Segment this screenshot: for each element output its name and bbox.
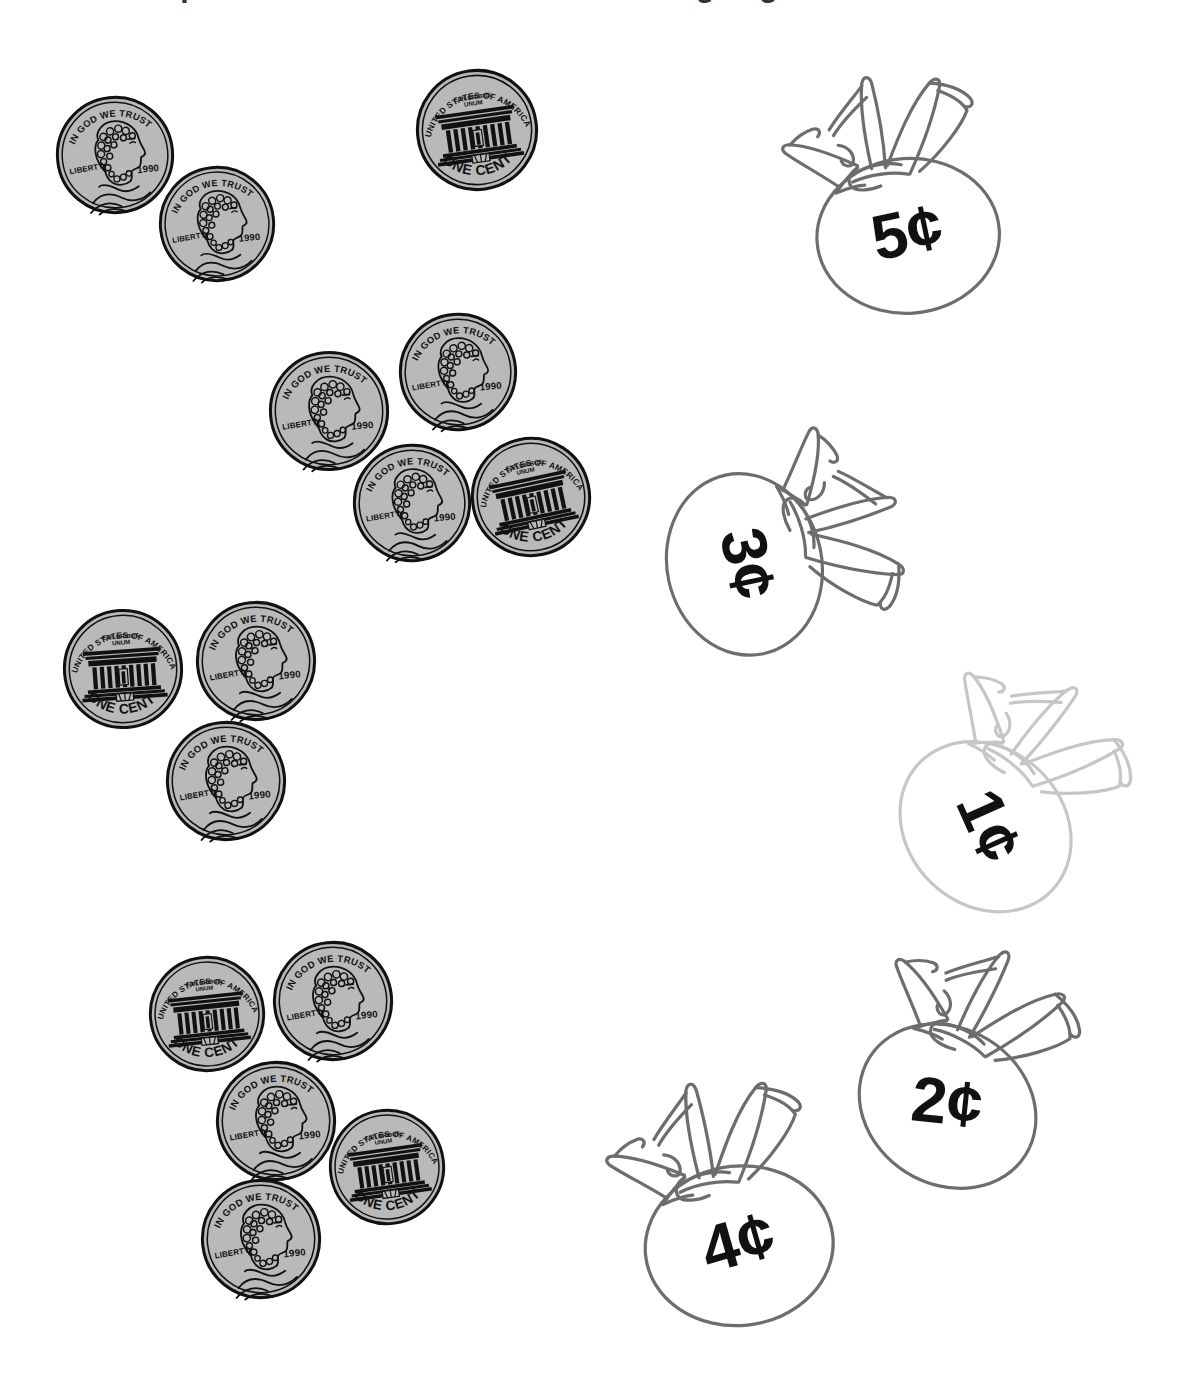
bag-5c[interactable]: 5¢ — [761, 52, 1029, 329]
bag-value-label: 1¢ — [942, 779, 1037, 873]
bag-3c[interactable]: 3¢ — [635, 396, 941, 695]
worksheet-page: Count the pennies. Draw a line to the ma… — [0, 0, 1192, 1390]
penny-coin-reverse — [142, 949, 272, 1079]
bag-outline — [644, 414, 921, 669]
bag-value-label: 3¢ — [707, 522, 790, 606]
bag-4c[interactable]: 4¢ — [585, 1053, 864, 1346]
penny-coin-obverse — [266, 934, 400, 1068]
bag-value-label: 2¢ — [908, 1062, 986, 1141]
penny-coin-reverse — [320, 1100, 453, 1233]
bag-value-label: 5¢ — [865, 190, 949, 273]
bag-outline — [778, 69, 1005, 321]
bag-value-label: 4¢ — [693, 1197, 783, 1287]
bag-outline — [600, 1071, 841, 1338]
penny-coin-obverse — [194, 1172, 328, 1306]
